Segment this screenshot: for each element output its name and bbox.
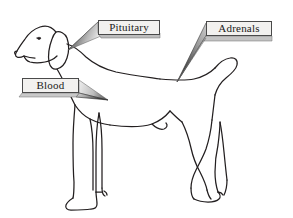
dog-eye — [37, 37, 41, 39]
callout-label-pituitary[interactable]: Pituitary — [98, 20, 160, 35]
callout-label-adrenals[interactable]: Adrenals — [206, 21, 272, 36]
callout-label-text: Adrenals — [218, 23, 259, 34]
label-box-shadow — [203, 36, 272, 41]
label-box-shadow — [19, 93, 79, 97]
callout-label-blood[interactable]: Blood — [22, 78, 79, 93]
diagram-canvas: Pituitary Adrenals Blood — [0, 0, 293, 218]
dog-outline-icon — [15, 26, 238, 210]
callout-label-text: Pituitary — [109, 22, 149, 33]
cone-pointer-highlight — [68, 22, 101, 50]
callout-label-text: Blood — [37, 80, 65, 91]
